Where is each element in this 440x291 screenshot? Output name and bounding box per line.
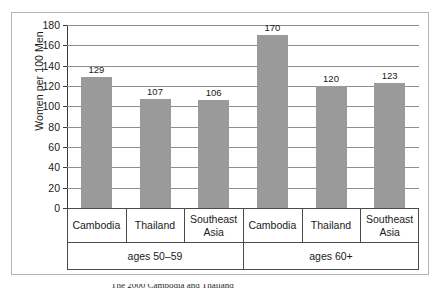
bar-value-label: 170 (252, 22, 292, 33)
gridline-160 (67, 45, 419, 46)
category-cell: Southeast Asia (184, 209, 243, 242)
y-tick-mark-160 (63, 45, 67, 46)
y-tick-mark-80 (63, 127, 67, 128)
caption-text: The 2000 Cambodia and Thailand (111, 284, 234, 290)
y-tick-mark-40 (63, 167, 67, 168)
figure-frame: Women per 100 Men 1801601401201008060402… (11, 12, 429, 275)
category-table: CambodiaThailandSoutheast AsiaCambodiaTh… (67, 208, 419, 270)
gridline-60 (67, 147, 419, 148)
bar-value-label: 106 (194, 87, 234, 98)
group-label: ages 60+ (243, 242, 419, 269)
y-tick-label-80: 80 (48, 121, 60, 133)
y-tick-mark-180 (63, 25, 67, 26)
y-tick-mark-120 (63, 86, 67, 87)
bar-value-label: 120 (311, 73, 351, 84)
plot-area: 180160140120100806040200 129107106170120… (67, 25, 419, 208)
gridline-180 (67, 25, 419, 26)
category-divider (302, 209, 303, 242)
category-divider (360, 209, 361, 242)
gridline-120 (67, 86, 419, 87)
gridline-140 (67, 66, 419, 67)
y-tick-label-140: 140 (42, 60, 60, 72)
bar (316, 86, 347, 208)
plot-inner: 180160140120100806040200 129107106170120… (67, 25, 419, 208)
y-tick-mark-20 (63, 188, 67, 189)
bar (198, 100, 229, 208)
y-tick-label-160: 160 (42, 39, 60, 51)
gridline-20 (67, 188, 419, 189)
y-tick-label-180: 180 (42, 19, 60, 31)
category-cell: Southeast Asia (360, 209, 419, 242)
category-divider (184, 209, 185, 242)
bar (140, 99, 171, 208)
group-label: ages 50–59 (67, 242, 243, 269)
category-cell: Cambodia (243, 209, 302, 242)
category-cell: Thailand (302, 209, 361, 242)
y-tick-label-20: 20 (48, 182, 60, 194)
y-tick-mark-60 (63, 147, 67, 148)
bar-value-label: 123 (370, 70, 410, 81)
bar-value-label: 129 (76, 64, 116, 75)
y-axis-line (67, 25, 68, 208)
y-tick-label-60: 60 (48, 141, 60, 153)
bar-value-label: 107 (135, 86, 175, 97)
y-tick-label-40: 40 (48, 161, 60, 173)
y-tick-mark-100 (63, 106, 67, 107)
gridline-40 (67, 167, 419, 168)
y-tick-mark-140 (63, 66, 67, 67)
bar (374, 83, 405, 208)
gridline-100 (67, 106, 419, 107)
gridline-80 (67, 127, 419, 128)
category-divider (126, 209, 127, 242)
bar (257, 35, 288, 208)
category-cell: Cambodia (67, 209, 126, 242)
bar (81, 77, 112, 208)
y-tick-label-0: 0 (54, 202, 60, 214)
y-tick-label-120: 120 (42, 80, 60, 92)
y-tick-label-100: 100 (42, 100, 60, 112)
caption-strip: The 2000 Cambodia and Thailand (11, 284, 429, 291)
category-cell: Thailand (126, 209, 185, 242)
